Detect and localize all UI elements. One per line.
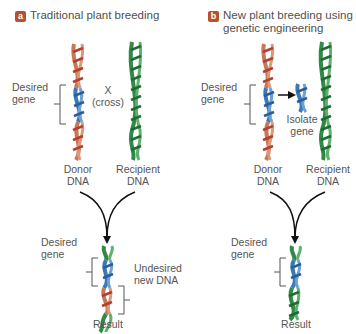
isolated-gene-helix [297, 84, 307, 112]
donor-dna-helix-b [263, 44, 274, 160]
panel-a-title-text: Traditional plant breeding [30, 9, 159, 21]
panel-b-title-line1: New plant breeding using [223, 9, 353, 21]
result-desired-gene-label-a: Desiredgene [41, 236, 91, 260]
result-label-b: Result [274, 318, 318, 330]
desired-gene-label-a: Desiredgene [12, 81, 62, 105]
donor-dna-label-b: DonorDNA [246, 163, 290, 187]
isolate-arrow-head [288, 91, 296, 99]
recipient-dna-helix-a [131, 42, 141, 160]
panel-b-badge: b [208, 11, 219, 22]
result-label-a: Result [86, 318, 130, 330]
recipient-dna-label-a: RecipientDNA [108, 163, 168, 187]
recipient-dna-label-b: RecipientDNA [298, 163, 356, 187]
bracket-undesired-a [118, 286, 130, 314]
result-dna-helix-a [100, 246, 113, 322]
result-dna-helix-b [289, 246, 301, 320]
panel-b-title-line2: genetic engineering [208, 22, 353, 35]
isolate-gene-label: Isolategene [284, 113, 320, 137]
merge-arrows-a [80, 192, 135, 238]
arrow-head-b [291, 236, 299, 244]
panel-b-title: bNew plant breeding using genetic engine… [208, 9, 353, 35]
panel-a-badge: a [15, 11, 26, 22]
desired-gene-label-b: Desiredgene [201, 81, 251, 105]
result-desired-gene-label-b: Desiredgene [231, 236, 281, 260]
bracket-result-desired-a [86, 258, 98, 286]
panel-a-title: aTraditional plant breeding [15, 9, 159, 22]
donor-dna-helix-a [73, 44, 84, 160]
undesired-new-dna-label: Undesirednew DNA [134, 262, 194, 286]
bracket-result-desired-b [274, 258, 286, 286]
donor-dna-label-a: DonorDNA [56, 163, 100, 187]
recipient-dna-helix-b [321, 42, 331, 160]
cross-label: X(cross) [88, 84, 128, 108]
merge-arrows-b [270, 192, 325, 238]
arrow-head-a [103, 236, 111, 244]
